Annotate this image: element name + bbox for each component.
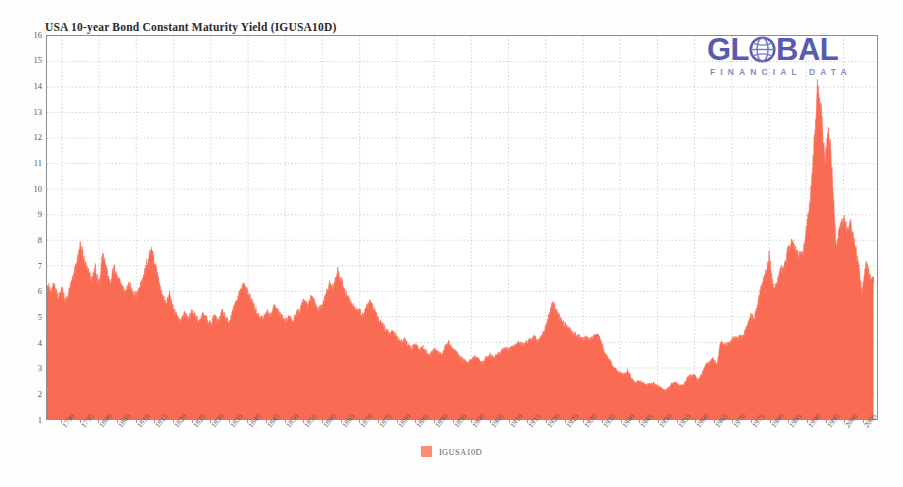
y-tick-label: 9: [20, 210, 42, 219]
y-axis: 12345678910111213141516: [16, 35, 42, 420]
y-tick-label: 8: [20, 236, 42, 245]
chart-title: USA 10-year Bond Constant Maturity Yield…: [45, 21, 337, 33]
y-tick-label: 3: [20, 364, 42, 373]
y-tick-label: 14: [20, 82, 42, 91]
plot-area: [46, 35, 878, 420]
series-area-igusa10d: [47, 36, 877, 419]
y-tick-label: 13: [20, 108, 42, 117]
y-tick-label: 7: [20, 262, 42, 271]
y-tick-label: 5: [20, 313, 42, 322]
y-tick-label: 1: [20, 416, 42, 425]
y-tick-label: 11: [20, 159, 42, 168]
y-tick-label: 10: [20, 185, 42, 194]
y-tick-label: 4: [20, 339, 42, 348]
y-tick-label: 16: [20, 31, 42, 40]
y-tick-label: 15: [20, 56, 42, 65]
legend-label-igusa10d: IGUSA10D: [439, 447, 482, 457]
x-axis: 1790179518001805181018151820182518301835…: [46, 420, 878, 464]
legend: IGUSA10D: [0, 446, 903, 457]
legend-swatch-igusa10d: [421, 446, 432, 457]
y-tick-label: 2: [20, 390, 42, 399]
y-tick-label: 12: [20, 133, 42, 142]
y-tick-label: 6: [20, 287, 42, 296]
bond-yield-chart: USA 10-year Bond Constant Maturity Yield…: [0, 0, 903, 487]
